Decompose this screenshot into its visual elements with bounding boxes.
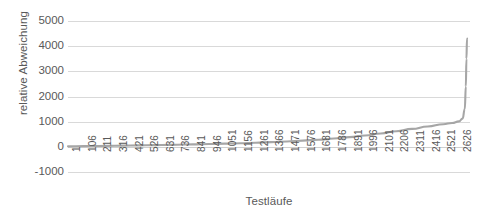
x-axis-tick-label: 1996 — [369, 129, 379, 152]
x-axis-tick-label: 106 — [88, 135, 98, 152]
x-axis-tick-label: 2626 — [463, 129, 473, 152]
y-axis-tick-label: -1000 — [2, 166, 64, 178]
x-axis-title: Testläufe — [68, 195, 470, 207]
x-axis-tick-label: 316 — [119, 135, 129, 152]
x-axis-tick-label: 2416 — [432, 129, 442, 152]
x-axis-tick-label: 736 — [181, 135, 191, 152]
y-axis-tick-label: 0 — [2, 141, 64, 153]
x-axis-tick-label: 1786 — [338, 129, 348, 152]
x-axis-tick-label: 1156 — [244, 130, 254, 152]
x-axis-tick-label: 946 — [213, 135, 223, 152]
x-axis-tick-label: 1681 — [322, 129, 332, 152]
y-axis-tick-labels: 500040003000200010000-1000 — [0, 0, 64, 217]
y-axis-tick-label: 5000 — [2, 15, 64, 27]
x-axis-tick-label: 2101 — [385, 129, 395, 152]
x-axis-tick-label: 2521 — [447, 129, 457, 152]
x-axis-tick-label: 1261 — [260, 129, 270, 152]
x-axis-tick-label: 1576 — [307, 129, 317, 152]
x-axis-tick-labels: 1106211316421526631736841946105111561261… — [68, 150, 470, 196]
x-axis-tick-label: 526 — [150, 135, 160, 152]
y-axis-tick-label: 3000 — [2, 66, 64, 78]
x-axis-tick-label: 1471 — [291, 129, 301, 152]
x-axis-tick-label: 211 — [103, 136, 113, 152]
x-axis-tick-label: 631 — [166, 135, 176, 152]
x-axis-tick-label: 1366 — [275, 129, 285, 152]
y-axis-tick-label: 2000 — [2, 91, 64, 103]
chart-container: relative Abweichung 50004000300020001000… — [0, 0, 480, 217]
x-axis-tick-label: 1051 — [228, 129, 238, 152]
x-axis-tick-label: 421 — [135, 135, 145, 152]
x-axis-tick-label: 1 — [72, 146, 82, 152]
x-axis-tick-label: 841 — [197, 135, 207, 152]
y-axis-tick-label: 4000 — [2, 40, 64, 52]
y-axis-tick-label: 1000 — [2, 116, 64, 128]
x-axis-tick-label: 2311 — [416, 130, 426, 152]
x-axis-tick-label: 1891 — [354, 129, 364, 152]
x-axis-tick-label: 2206 — [400, 129, 410, 152]
